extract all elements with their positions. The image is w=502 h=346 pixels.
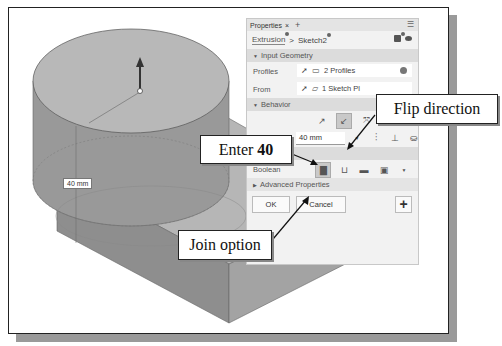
boolean-label: Boolean (253, 165, 297, 174)
new-solid-icon[interactable]: ▣ (377, 163, 391, 177)
apply-add-button[interactable]: + (395, 196, 412, 213)
expand-icon: ▼ (253, 53, 258, 59)
profile-icon: ▭ (312, 66, 320, 75)
sketch-plane-icon: ▱ (312, 84, 318, 93)
flip-direction-icon[interactable]: ↙ (336, 113, 352, 129)
collapse-icon: ▶ (253, 182, 257, 188)
enter-value-callout: Enter40 (200, 135, 292, 164)
profiles-row: Profiles ➚ ▭ 2 Profiles (247, 62, 418, 80)
distance-dropdown-icon[interactable]: ▼ (350, 131, 364, 145)
breadcrumb-sketch-label: Sketch2 (298, 36, 327, 45)
symmetric-direction-icon[interactable]: ⤧ (359, 114, 373, 128)
tab-properties[interactable]: Properties × (250, 22, 289, 29)
tab-label: Properties (250, 22, 282, 29)
callout-value: 40 (257, 141, 273, 159)
breadcrumb: Extrusion > Sketch2 (247, 31, 418, 49)
join-option-callout: Join option (178, 230, 272, 260)
callout-text: Flip direction (394, 100, 481, 118)
from-value: 1 Sketch Pl (322, 84, 360, 93)
from-label: From (253, 85, 297, 94)
close-tab-icon[interactable]: × (285, 22, 289, 29)
callout-text: Join option (189, 236, 261, 254)
through-all-icon[interactable]: ⛀ (407, 131, 421, 145)
section-title: Input Geometry (261, 51, 313, 60)
cancel-button[interactable]: Cancel (296, 196, 346, 213)
distance-input[interactable]: 40 mm (296, 132, 345, 145)
cursor-arrow-icon: ➚ (301, 66, 308, 75)
section-advanced-properties[interactable]: ▶ Advanced Properties (247, 178, 418, 191)
section-input-geometry[interactable]: ▼ Input Geometry (247, 49, 418, 62)
flip-direction-callout: Flip direction (376, 94, 498, 124)
dialog-buttons: OK Cancel + (247, 191, 418, 217)
cut-icon[interactable]: ⊔ (337, 163, 351, 177)
section-title: Behavior (261, 100, 291, 109)
breadcrumb-sketch[interactable]: Sketch2 (298, 36, 327, 45)
breadcrumb-separator: > (289, 36, 294, 45)
panel-tab-row: Properties × + ☰ (247, 19, 418, 31)
to-face-icon[interactable]: ⊥ (388, 131, 402, 145)
join-icon[interactable]: ▇ (315, 162, 331, 178)
callout-text: Enter (219, 141, 254, 159)
clear-selection-icon[interactable] (400, 67, 407, 74)
breadcrumb-extrusion[interactable]: Extrusion (252, 35, 285, 45)
profiles-value: 2 Profiles (324, 66, 355, 75)
cursor-arrow-icon: ➚ (301, 84, 308, 93)
direction-default-icon[interactable]: ↗ (315, 114, 329, 128)
status-dot-icon (327, 33, 331, 37)
preview-eye-icon[interactable] (405, 36, 412, 41)
add-tab-icon[interactable]: + (295, 20, 300, 30)
intersect-icon[interactable]: ▬ (357, 163, 371, 177)
status-dot-icon (401, 32, 405, 36)
expand-icon: ▼ (253, 102, 258, 108)
boolean-dropdown-icon[interactable]: ▼ (397, 163, 411, 177)
breadcrumb-extrusion-label: Extrusion (252, 35, 285, 44)
section-title: Advanced Properties (260, 180, 330, 189)
distance-dimension-label[interactable]: 40 mm (63, 178, 92, 189)
panel-menu-icon[interactable]: ☰ (407, 20, 414, 29)
profiles-label: Profiles (253, 67, 297, 76)
preset-icon[interactable] (394, 35, 401, 42)
distance-mode-icon[interactable]: ⫶ (369, 131, 383, 145)
ok-button[interactable]: OK (252, 196, 290, 213)
profiles-selector[interactable]: ➚ ▭ 2 Profiles (297, 64, 412, 77)
